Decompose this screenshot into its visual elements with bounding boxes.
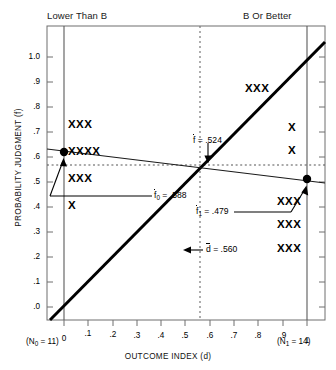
xtick-0.8: .8 xyxy=(248,331,268,340)
xtick-0.5: .5 xyxy=(175,331,195,340)
f0-symbol: f xyxy=(154,190,156,200)
annotation-f0: f0 = .588 xyxy=(154,190,186,203)
xtick-0.3: .3 xyxy=(127,331,147,340)
annotation-f1: f1 = .479 xyxy=(196,206,228,219)
n0-suffix: = 11) xyxy=(38,337,59,346)
tally-right-row-4: XXX xyxy=(277,196,301,207)
xtick-0.1: .1 xyxy=(78,329,98,338)
tally-right-row-5: XXX xyxy=(277,219,301,230)
ytick-0.0: .0 xyxy=(18,302,40,311)
tally-left-row-1: XXX xyxy=(68,119,92,130)
tally-left-row-4: X xyxy=(68,200,76,211)
xtick-0.6: .6 xyxy=(200,331,220,340)
leader-fmean xyxy=(204,143,211,164)
ytick-0.9: .9 xyxy=(18,77,40,86)
tally-left-row-2: XXXX xyxy=(68,146,100,157)
dmean-value: = .560 xyxy=(211,244,238,254)
x-axis-ticks xyxy=(64,320,307,326)
tally-right-row-2: X xyxy=(288,122,296,133)
mean-point-group0 xyxy=(60,148,68,156)
dmean-symbol: d xyxy=(206,244,211,254)
leader-f0 xyxy=(50,158,152,196)
n1-suffix: = 14) xyxy=(289,337,310,346)
ytick-0.1: .1 xyxy=(18,277,40,286)
f1-symbol: f xyxy=(196,206,198,216)
n0-prefix: (N xyxy=(26,337,35,346)
sample-size-group0: (N0 = 11) xyxy=(26,337,59,347)
y-axis-title: PROBABILITY JUDGMENT (f) xyxy=(14,98,23,238)
fmean-value: = .524 xyxy=(195,135,222,145)
y-axis-ticks xyxy=(47,57,53,307)
annotation-dmean: d = .560 xyxy=(206,244,237,254)
xtick-0.4: .4 xyxy=(151,331,171,340)
annotation-fmean: f = .524 xyxy=(193,135,222,145)
fmean-symbol: f xyxy=(193,135,195,145)
sample-size-group1: (N1 = 14) xyxy=(277,337,310,347)
mean-point-group1 xyxy=(303,175,311,183)
tally-right-row-6: XXX xyxy=(277,243,301,254)
f1-value: = .479 xyxy=(202,206,229,216)
tally-right-row-1: XXX xyxy=(245,83,269,94)
f0-value: = .588 xyxy=(160,190,187,200)
n1-prefix: (N xyxy=(277,337,286,346)
chart-canvas xyxy=(0,0,336,370)
tally-left-row-3: XXX xyxy=(68,173,92,184)
ytick-0.2: .2 xyxy=(18,252,40,261)
xtick-0.7: .7 xyxy=(224,331,244,340)
figure-panel: Lower Than B B Or Better xyxy=(0,0,336,370)
xtick-0.2: .2 xyxy=(103,330,123,339)
ytick-1.0: 1.0 xyxy=(18,52,40,61)
tally-right-row-3: X xyxy=(288,145,296,156)
x-axis-title: OUTCOME INDEX (d) xyxy=(0,352,336,361)
